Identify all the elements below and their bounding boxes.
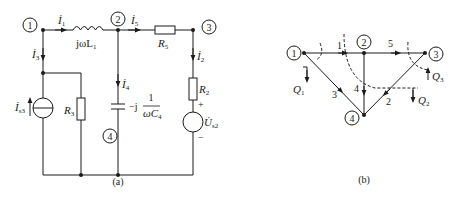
resistor-r2 — [189, 78, 197, 100]
label-i5: İ5 — [130, 14, 139, 28]
voltage-source-us2 — [183, 112, 203, 132]
resistor-r3 — [77, 98, 85, 120]
branch-3-label: 3 — [332, 89, 337, 100]
label-i2: İ2 — [196, 50, 205, 64]
arrow-branch-2 — [385, 89, 390, 94]
label-cap-den: ωC4 — [143, 107, 162, 121]
cutset-q1-curve — [316, 43, 322, 60]
branch-2-label: 2 — [386, 96, 391, 107]
cutset-q2-label: Q2 — [418, 94, 430, 108]
label-us2: U̇s2 — [204, 116, 219, 130]
label-inductor: jωL1 — [75, 37, 97, 51]
graph-node-2-label: 2 — [362, 37, 367, 48]
caption-a: (a) — [112, 176, 123, 188]
label-is3: İs3 — [14, 101, 25, 115]
branch-5-label: 5 — [388, 38, 393, 49]
graph-node-4-label: 4 — [350, 113, 355, 124]
node-3-label: 3 — [207, 22, 212, 33]
caption-b: (b) — [358, 174, 370, 186]
node-1-label: 1 — [28, 20, 33, 31]
label-r5: R5 — [157, 37, 169, 51]
node-2-label: 2 — [116, 14, 121, 25]
label-i3: İ3 — [31, 48, 40, 62]
label-i1: İ1 — [57, 14, 66, 28]
label-cap-prefix: −j — [129, 101, 137, 112]
graph-node-1-label: 1 — [292, 48, 297, 59]
label-r3: R3 — [63, 104, 75, 118]
cutset-q3-curve — [408, 42, 428, 70]
cutset-q2-curve — [344, 34, 418, 88]
branch-1-label: 1 — [337, 40, 342, 51]
cutset-q1-label: Q1 — [293, 83, 305, 97]
label-r2: R2 — [198, 83, 210, 97]
branch-4-label: 4 — [354, 83, 359, 94]
circuit-diagram: 1 2 3 4 İ1 İ5 İ3 İ4 İ2 jωL1 R5 R3 R2 İs3… — [0, 0, 456, 200]
label-cap-num: 1 — [149, 92, 154, 103]
label-i4: İ4 — [121, 78, 130, 92]
graph-node-3-label: 3 — [434, 49, 439, 60]
branch-2 — [364, 53, 425, 115]
resistor-r5 — [155, 26, 175, 34]
node-4-label: 4 — [108, 131, 113, 142]
cutset-q1-arrow-line — [303, 67, 307, 78]
inductor-l1 — [73, 27, 103, 31]
label-minus: − — [198, 132, 204, 143]
cutset-q3-label: Q3 — [432, 70, 444, 84]
figure-a — [23, 12, 216, 175]
label-plus: + — [198, 99, 204, 110]
